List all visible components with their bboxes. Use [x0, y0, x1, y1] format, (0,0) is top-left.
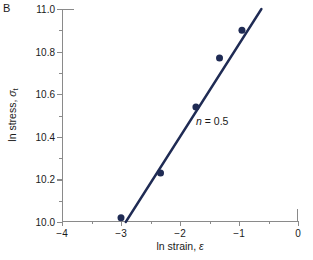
x-axis-title-prefix: ln strain,: [156, 240, 199, 252]
x-tick-label: −1: [233, 228, 244, 239]
x-tick-label: −4: [56, 228, 67, 239]
exponent-value: 0.5: [214, 115, 229, 127]
y-axis-subscript: t: [11, 88, 20, 90]
y-tick-label: 10.2: [36, 174, 55, 185]
y-tick-label: 10.0: [36, 217, 55, 228]
data-point-marker: [192, 103, 199, 110]
x-tick-label: −3: [115, 228, 126, 239]
x-tick-label: 0: [295, 228, 301, 239]
fit-line-segment: [126, 9, 262, 222]
y-axis-symbol: σ: [6, 90, 18, 96]
x-axis-symbol: ε: [199, 240, 204, 252]
plot-area: 10.010.210.410.610.811.0 −4−3−2−10 n = 0…: [62, 9, 298, 222]
y-tick-label: 10.6: [36, 89, 55, 100]
fit-exponent-annotation: n = 0.5: [196, 115, 228, 127]
fit-line: [126, 9, 262, 222]
data-layer: [62, 9, 298, 222]
y-axis-title-prefix: ln stress,: [6, 97, 18, 142]
x-tick-label: −2: [174, 228, 185, 239]
y-tick-label: 10.4: [36, 131, 55, 142]
x-tick-major: [298, 221, 299, 226]
data-point-marker: [118, 214, 125, 221]
data-point-marker: [238, 27, 245, 34]
y-tick-label: 11.0: [36, 4, 55, 15]
annotation-equals: =: [202, 115, 214, 127]
y-tick-label: 10.8: [36, 46, 55, 57]
data-point-marker: [157, 170, 164, 177]
x-axis-title: ln strain, ε: [62, 240, 298, 252]
y-axis-title: ln stress, σt: [6, 50, 20, 180]
data-point-marker: [216, 54, 223, 61]
panel-label: B: [3, 2, 11, 14]
figure-panel: B 10.010.210.410.610.811.0 −4−3−2−10 n =…: [0, 0, 313, 260]
